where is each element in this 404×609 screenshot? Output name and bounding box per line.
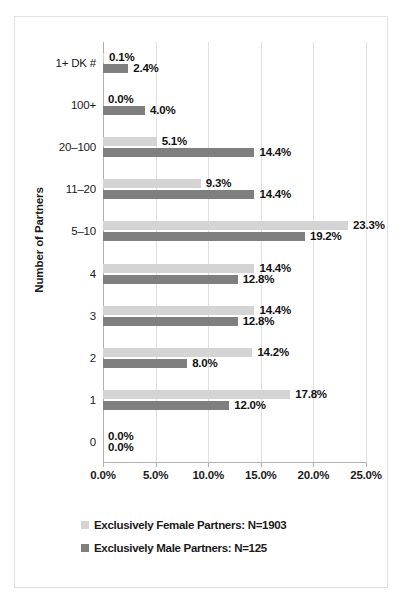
bar-row: 14.4% <box>103 148 291 157</box>
bar-value-label: 0.0% <box>108 443 133 452</box>
bar-male[interactable] <box>103 148 254 157</box>
bar-row: 14.2% <box>103 348 289 357</box>
bar-value-label: 2.4% <box>133 64 158 73</box>
bar-value-label: 0.1% <box>109 53 134 62</box>
bar-row: 19.2% <box>103 232 342 241</box>
bar-value-label: 12.8% <box>243 275 275 284</box>
bar-row: 23.3% <box>103 221 385 230</box>
bar-value-label: 14.4% <box>259 148 291 157</box>
bar-value-label: 0.0% <box>108 95 133 104</box>
bar-group: 00.0%0.0% <box>103 421 366 463</box>
bar-female[interactable] <box>103 306 254 315</box>
x-axis-tick <box>103 463 104 467</box>
bar-value-label: 14.2% <box>257 348 289 357</box>
bar-row: 5.1% <box>103 137 187 146</box>
bar-group: 314.4%12.8% <box>103 295 366 337</box>
y-axis-category-label: 5–10 <box>71 225 96 237</box>
bar-row: 14.4% <box>103 306 291 315</box>
x-axis-tick-label: 25.0% <box>350 469 382 481</box>
bar-male[interactable] <box>103 106 145 115</box>
y-axis-category-label: 2 <box>90 352 96 364</box>
legend-item[interactable]: Exclusively Male Partners: N=125 <box>81 542 321 554</box>
bar-female[interactable] <box>103 264 254 273</box>
y-axis-category-label: 100+ <box>71 99 96 111</box>
bar-value-label: 19.2% <box>310 232 342 241</box>
bar-female[interactable] <box>103 390 290 399</box>
y-axis-category-label: 0 <box>90 436 96 448</box>
x-axis-tick-label: 5.0% <box>143 469 168 481</box>
x-axis-tick <box>208 463 209 467</box>
legend-label: Exclusively Female Partners: N=1903 <box>94 519 286 531</box>
bar-value-label: 4.0% <box>150 106 175 115</box>
y-axis-category-label: 4 <box>90 268 96 280</box>
bar-row: 14.4% <box>103 190 291 199</box>
bar-group: 214.2%8.0% <box>103 337 366 379</box>
bar-value-label: 14.4% <box>259 306 291 315</box>
x-axis-tick <box>313 463 314 467</box>
bar-value-label: 0.0% <box>108 432 133 441</box>
legend-item[interactable]: Exclusively Female Partners: N=1903 <box>81 519 321 531</box>
x-axis-tick <box>156 463 157 467</box>
bar-row: 12.8% <box>103 317 274 326</box>
x-axis-tick-label: 10.0% <box>192 469 224 481</box>
bar-value-label: 23.3% <box>353 221 385 230</box>
bar-male[interactable] <box>103 317 238 326</box>
bar-value-label: 12.8% <box>243 317 275 326</box>
chart-legend: Exclusively Female Partners: N=1903Exclu… <box>15 519 387 554</box>
bar-row: 0.0% <box>103 95 133 104</box>
bar-value-label: 12.0% <box>234 401 266 410</box>
bar-male[interactable] <box>103 401 229 410</box>
bar-row: 0.0% <box>103 443 133 452</box>
bar-row: 4.0% <box>103 106 176 115</box>
bar-female[interactable] <box>103 221 348 230</box>
gridline <box>366 42 367 463</box>
y-axis-category-label: 11–20 <box>66 183 96 195</box>
bar-female[interactable] <box>103 53 104 62</box>
x-axis-tick-label: 0.0% <box>90 469 115 481</box>
bar-row: 9.3% <box>103 179 231 188</box>
bar-group: 20–1005.1%14.4% <box>103 126 366 168</box>
bar-row: 12.8% <box>103 275 274 284</box>
bar-male[interactable] <box>103 232 305 241</box>
bar-group: 117.8%12.0% <box>103 379 366 421</box>
y-axis-category-label: 1+ DK # <box>56 57 96 69</box>
x-axis-tick-label: 20.0% <box>298 469 330 481</box>
x-axis-tick <box>261 463 262 467</box>
bar-row: 17.8% <box>103 390 327 399</box>
bar-value-label: 14.4% <box>259 190 291 199</box>
plot-area: 1+ DK #0.1%2.4%100+0.0%4.0%20–1005.1%14.… <box>103 42 366 463</box>
bar-row: 8.0% <box>103 359 218 368</box>
legend-label: Exclusively Male Partners: N=125 <box>94 542 267 554</box>
bar-female[interactable] <box>103 348 252 357</box>
bar-male[interactable] <box>103 275 238 284</box>
bar-group: 11–209.3%14.4% <box>103 168 366 210</box>
y-axis-title-text: Number of Partners <box>33 187 45 293</box>
bar-group: 1+ DK #0.1%2.4% <box>103 42 366 84</box>
y-axis-category-label: 1 <box>90 394 96 406</box>
bar-row: 0.0% <box>103 432 133 441</box>
x-axis-line <box>103 462 366 463</box>
x-axis-tick <box>366 463 367 467</box>
bar-female[interactable] <box>103 179 201 188</box>
bar-female[interactable] <box>103 137 157 146</box>
bar-male[interactable] <box>103 190 254 199</box>
x-axis-tick-label: 15.0% <box>245 469 277 481</box>
legend-swatch-icon <box>81 544 89 552</box>
bar-row: 14.4% <box>103 264 291 273</box>
bar-group: 414.4%12.8% <box>103 253 366 295</box>
bar-row: 12.0% <box>103 401 266 410</box>
bar-value-label: 8.0% <box>192 359 217 368</box>
bar-row: 0.1% <box>103 53 134 62</box>
legend-swatch-icon <box>81 521 89 529</box>
bar-value-label: 17.8% <box>295 390 327 399</box>
y-axis-category-label: 3 <box>90 310 96 322</box>
bar-male[interactable] <box>103 64 128 73</box>
bar-group: 100+0.0%4.0% <box>103 84 366 126</box>
bar-value-label: 5.1% <box>162 137 187 146</box>
y-axis-title: Number of Partners <box>31 17 47 463</box>
y-axis-category-label: 20–100 <box>59 141 96 153</box>
bar-group: 5–1023.3%19.2% <box>103 210 366 252</box>
bar-male[interactable] <box>103 359 187 368</box>
bar-value-label: 14.4% <box>259 264 291 273</box>
bar-row: 2.4% <box>103 64 159 73</box>
